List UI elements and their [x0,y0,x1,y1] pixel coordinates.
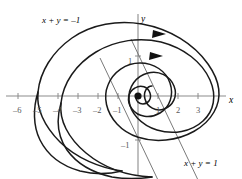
x-tick-label--4: –4 [53,105,62,115]
x-tick-label--5: –5 [33,105,42,115]
x-tick-label--2: –2 [93,105,102,115]
equilibrium-point [134,92,141,99]
y-tick-label-1: 1 [128,56,132,66]
y-axis-label: y [141,14,145,24]
nullcline-lower-equation-label: x + y = 1 [184,158,218,168]
nullcline-upper-equation-label: x + y = –1 [42,15,80,25]
x-tick-label--3: –3 [73,105,82,115]
y-tick-label--1: –1 [121,140,130,150]
x-tick-label-1: 1 [156,105,160,115]
nullcline-upper-line [100,58,167,179]
flow-arrow-lower [149,52,163,60]
direction-arrows-group [149,30,166,60]
x-tick-label-3: 3 [196,105,200,115]
x-axis-label: x [229,95,233,105]
phase-portrait-figure: –6 –5 –4 –3 –2 –1 1 2 3 1 –1 x y x + y =… [0,0,242,179]
x-tick-label-2: 2 [176,105,180,115]
flow-arrow-upper [152,30,166,38]
x-tick-label--1: –1 [113,105,122,115]
x-tick-label--6: –6 [13,105,22,115]
